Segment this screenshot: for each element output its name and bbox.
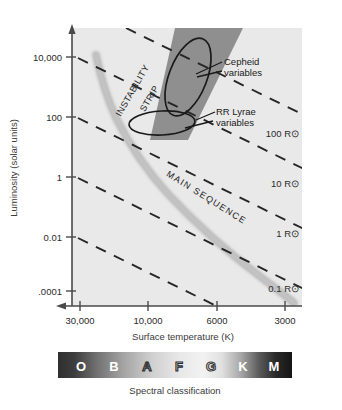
rr-lyrae-variables-label-line1: RR Lyrae (216, 106, 256, 117)
spectral-classification-caption: Spectral classification (129, 385, 220, 396)
spectral-classification-bar[interactable]: O B A F G K M (58, 352, 292, 378)
radius-label-10: 10 R⊙ (271, 178, 299, 189)
y-tick-label-0: 10,000 (33, 52, 62, 63)
spectral-class-F: F (175, 359, 183, 374)
x-tick-label-3: 3000 (274, 315, 295, 326)
radius-label-100: 100 R⊙ (266, 128, 299, 139)
radius-label-0p1: 0.1 R⊙ (268, 283, 299, 294)
radius-label-1: 1 R⊙ (276, 228, 299, 239)
cepheid-variables-label-line1: Cepheid (224, 56, 259, 67)
y-tick-label-2: 1 (57, 172, 62, 183)
spectral-class-K: K (238, 359, 248, 374)
spectral-class-M: M (269, 359, 280, 374)
x-tick-label-1: 10,000 (133, 315, 162, 326)
y-tick-label-3: 0.01 (44, 232, 63, 243)
rr-lyrae-variables-label-line2: variables (216, 117, 254, 128)
spectral-class-A: A (142, 359, 152, 374)
y-tick-label-1: 100 (46, 112, 62, 123)
x-tick-label-0: 30,000 (65, 315, 94, 326)
x-axis-title: Surface temperature (K) (132, 331, 234, 342)
spectral-class-B: B (109, 359, 118, 374)
spectral-class-G: G (206, 359, 216, 374)
cepheid-variables-label-line2: variables (224, 67, 262, 78)
spectral-class-O: O (76, 359, 86, 374)
y-tick-label-4: .0001 (38, 286, 62, 297)
y-axis-title: Luminosity (solar units) (8, 119, 19, 217)
x-tick-label-2: 6000 (206, 315, 227, 326)
hr-diagram-svg: INSTABILITY STRIP MAIN SEQUENCE (0, 0, 342, 410)
hr-diagram-figure: INSTABILITY STRIP MAIN SEQUENCE (0, 0, 342, 410)
